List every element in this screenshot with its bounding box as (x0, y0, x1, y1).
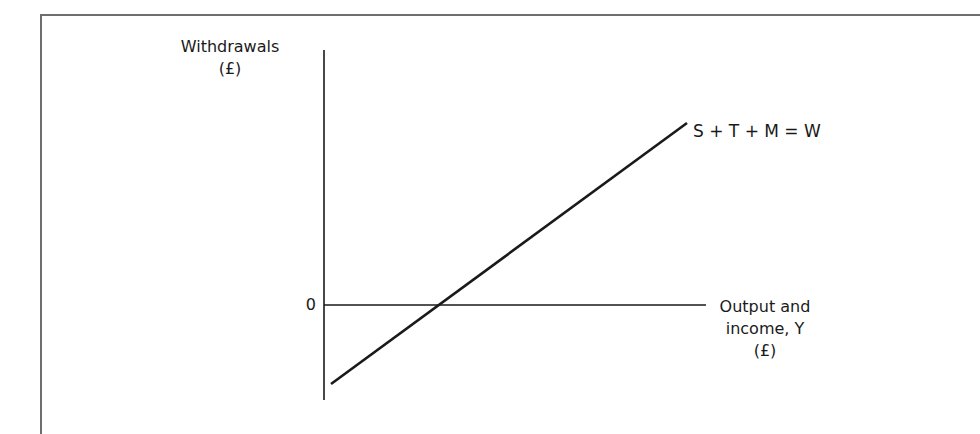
x-axis-label-line1: Output and (700, 296, 830, 318)
withdrawals-curve-label: S + T + M = W (693, 120, 821, 142)
origin-label: 0 (302, 294, 316, 316)
y-axis-label-line2: (£) (160, 58, 300, 80)
x-axis-label-line2: income, Y (700, 318, 830, 340)
x-axis-label: Output and income, Y (£) (700, 296, 830, 362)
y-axis-label-line1: Withdrawals (160, 36, 300, 58)
x-axis-label-line3: (£) (700, 340, 830, 362)
withdrawals-line (331, 123, 687, 384)
y-axis-label: Withdrawals (£) (160, 36, 300, 80)
